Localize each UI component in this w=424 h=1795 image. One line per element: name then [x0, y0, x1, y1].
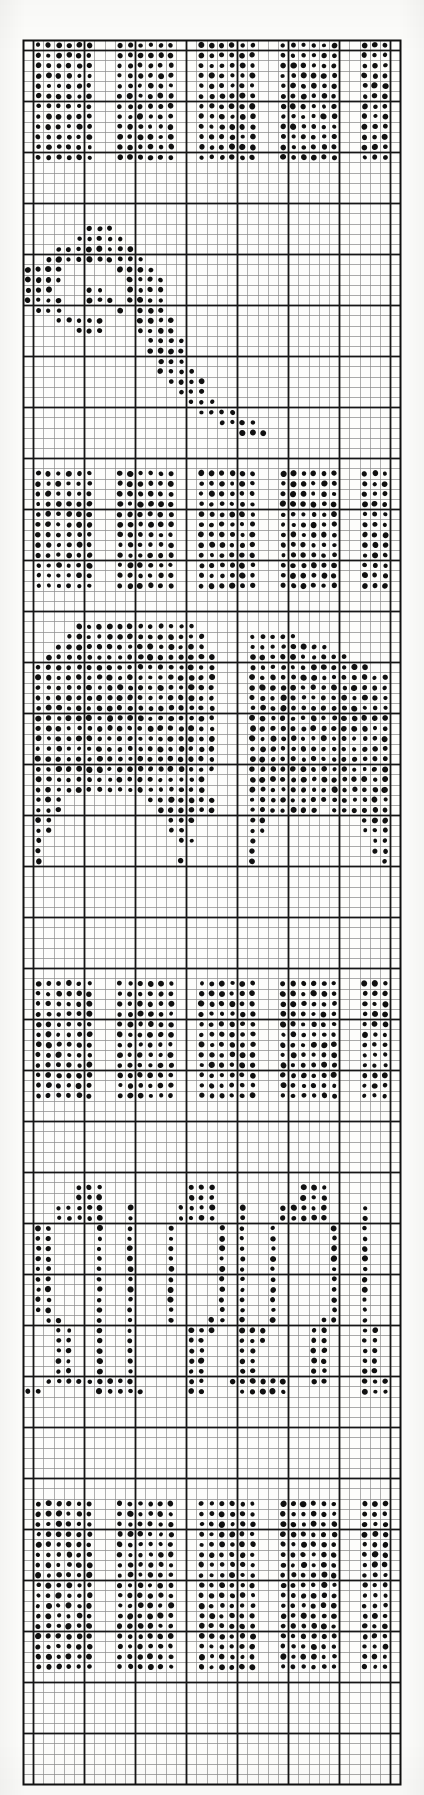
legend-filled-label: stitch	[0, 0, 1, 1]
legend-empty-label: no stitch	[0, 0, 1, 1]
chart-description: Monochrome counted cross-stitch / filet …	[0, 0, 1, 1]
chart-grid-canvas[interactable]	[20, 37, 403, 1787]
cross-stitch-chart: Cross-stitch alphabet chart Monochrome c…	[0, 0, 424, 1795]
chart-grid[interactable]	[20, 37, 403, 1787]
chart-title: Cross-stitch alphabet chart	[0, 0, 1, 1]
